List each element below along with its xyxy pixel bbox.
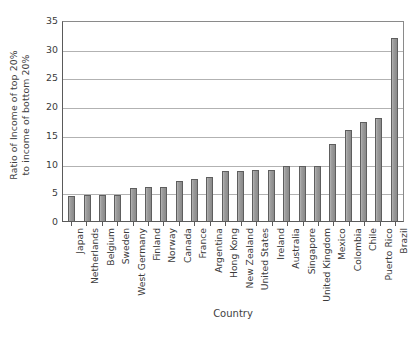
x-axis-tick-slot bbox=[310, 222, 325, 227]
x-axis-tick-slot bbox=[326, 222, 341, 227]
x-axis-label-slot: Belgium bbox=[94, 228, 109, 304]
x-axis-tick-mark bbox=[256, 222, 257, 226]
y-axis-tick-labels: 05101520253035 bbox=[33, 0, 58, 341]
x-axis-tick-label: Brazil bbox=[399, 228, 409, 254]
x-axis-tick-slot bbox=[187, 222, 202, 227]
x-axis-tick-labels: JapanNetherlandsBelgiumSwedenWest German… bbox=[62, 228, 404, 304]
x-axis-label-slot: United States bbox=[248, 228, 263, 304]
x-axis-label-slot: Argentina bbox=[202, 228, 217, 304]
bar bbox=[145, 187, 152, 221]
bar bbox=[68, 196, 75, 221]
bar-slot bbox=[79, 22, 94, 221]
x-axis-tick-mark bbox=[210, 222, 211, 226]
x-axis-label-slot: Australia bbox=[279, 228, 294, 304]
x-axis-label-slot: Brazil bbox=[388, 228, 403, 304]
bar-slot bbox=[248, 22, 263, 221]
x-axis-tick-mark bbox=[395, 222, 396, 226]
plot-area bbox=[62, 21, 404, 222]
bar-slot bbox=[64, 22, 79, 221]
bar bbox=[114, 195, 121, 221]
y-axis-tick-label: 15 bbox=[46, 131, 58, 141]
x-axis-tick-slot bbox=[171, 222, 186, 227]
y-axis-tick-label: 10 bbox=[46, 160, 58, 170]
bar-slot bbox=[187, 22, 202, 221]
x-axis-label-slot: New Zealand bbox=[233, 228, 248, 304]
x-axis-label-slot: Sweden bbox=[109, 228, 124, 304]
x-axis-tick-mark bbox=[163, 222, 164, 226]
x-axis-tick-slot bbox=[248, 222, 263, 227]
x-axis-label-slot: Mexico bbox=[326, 228, 341, 304]
bar bbox=[268, 170, 275, 221]
bar-slot bbox=[233, 22, 248, 221]
x-axis-label-slot: Ireland bbox=[264, 228, 279, 304]
x-axis-tick-mark bbox=[364, 222, 365, 226]
bar-slot bbox=[371, 22, 386, 221]
x-axis-tick-mark bbox=[333, 222, 334, 226]
x-axis-label-slot: Hong Kong bbox=[218, 228, 233, 304]
x-axis-tick-mark bbox=[148, 222, 149, 226]
x-axis-tick-slot bbox=[63, 222, 78, 227]
bar-slot bbox=[218, 22, 233, 221]
bar bbox=[329, 144, 336, 221]
x-axis-tick-slot bbox=[341, 222, 356, 227]
bar-slot bbox=[264, 22, 279, 221]
bar-series bbox=[63, 22, 403, 221]
bar bbox=[130, 188, 137, 221]
x-axis-tick-mark bbox=[318, 222, 319, 226]
x-axis-tick-marks bbox=[62, 222, 404, 227]
x-axis-tick-slot bbox=[140, 222, 155, 227]
x-axis-tick-mark bbox=[133, 222, 134, 226]
x-axis-tick-slot bbox=[94, 222, 109, 227]
x-axis-tick-slot bbox=[279, 222, 294, 227]
x-axis-tick-slot bbox=[233, 222, 248, 227]
bar-slot bbox=[294, 22, 309, 221]
bar-slot bbox=[310, 22, 325, 221]
bar-slot bbox=[356, 22, 371, 221]
bar bbox=[99, 195, 106, 221]
bar bbox=[360, 122, 367, 221]
bar-slot bbox=[110, 22, 125, 221]
x-axis-tick-slot bbox=[202, 222, 217, 227]
x-axis-tick-slot bbox=[295, 222, 310, 227]
x-axis-tick-mark bbox=[117, 222, 118, 226]
x-axis-tick-slot bbox=[125, 222, 140, 227]
y-axis-tick-label: 0 bbox=[52, 217, 58, 227]
bar bbox=[252, 170, 259, 221]
x-axis-label-slot: Finland bbox=[140, 228, 155, 304]
x-axis-label-slot: Japan bbox=[63, 228, 78, 304]
bar bbox=[84, 195, 91, 221]
bar bbox=[314, 166, 321, 221]
bar-slot bbox=[95, 22, 110, 221]
y-axis-tick-label: 35 bbox=[46, 16, 58, 26]
x-axis-tick-slot bbox=[388, 222, 403, 227]
x-axis-label-slot: Netherlands bbox=[78, 228, 93, 304]
bar-slot bbox=[340, 22, 355, 221]
x-axis-label-slot: Norway bbox=[156, 228, 171, 304]
x-axis-tick-mark bbox=[349, 222, 350, 226]
x-axis-tick-mark bbox=[303, 222, 304, 226]
y-axis-tick-label: 30 bbox=[46, 45, 58, 55]
x-axis-label-slot: Puerto Rico bbox=[372, 228, 387, 304]
bar bbox=[191, 179, 198, 222]
x-axis-tick-slot bbox=[357, 222, 372, 227]
bar bbox=[375, 118, 382, 221]
y-axis-title-line1: Ratio of Income of top 20% bbox=[8, 50, 19, 179]
y-axis-tick-label: 25 bbox=[46, 73, 58, 83]
bar bbox=[391, 38, 398, 221]
bar-slot bbox=[202, 22, 217, 221]
x-axis-tick-slot bbox=[372, 222, 387, 227]
x-axis-label-slot: Canada bbox=[171, 228, 186, 304]
bar bbox=[237, 171, 244, 221]
x-axis-tick-slot bbox=[264, 222, 279, 227]
x-axis-label-slot: United Kingdom bbox=[310, 228, 325, 304]
x-axis-tick-mark bbox=[86, 222, 87, 226]
bar-slot bbox=[325, 22, 340, 221]
bar bbox=[345, 130, 352, 221]
x-axis-tick-mark bbox=[241, 222, 242, 226]
x-axis-tick-mark bbox=[179, 222, 180, 226]
bar-slot bbox=[279, 22, 294, 221]
bar bbox=[222, 171, 229, 221]
bar bbox=[299, 166, 306, 221]
x-axis-tick-mark bbox=[102, 222, 103, 226]
y-axis-title-line2: to income of bottom 20% bbox=[20, 50, 32, 179]
